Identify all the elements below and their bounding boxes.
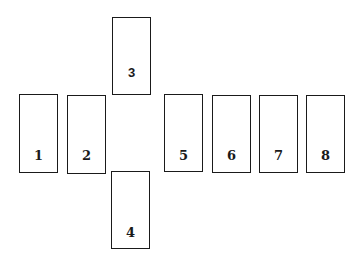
card-5: 5 — [164, 94, 203, 172]
card-6: 6 — [212, 95, 251, 173]
card-8: 8 — [306, 95, 345, 173]
card-7-number: 7 — [260, 149, 297, 163]
card-5-number: 5 — [165, 149, 202, 163]
card-3: 3 — [112, 17, 151, 95]
card-4-number: 4 — [112, 226, 149, 240]
card-7: 7 — [259, 95, 298, 173]
card-2-number: 2 — [68, 149, 105, 163]
card-4: 4 — [111, 171, 150, 249]
card-1-number: 1 — [20, 149, 57, 163]
card-6-number: 6 — [213, 149, 250, 163]
card-2: 2 — [67, 95, 106, 174]
card-3-number: 3 — [113, 66, 150, 80]
card-8-number: 8 — [307, 149, 344, 163]
card-1: 1 — [19, 94, 58, 173]
